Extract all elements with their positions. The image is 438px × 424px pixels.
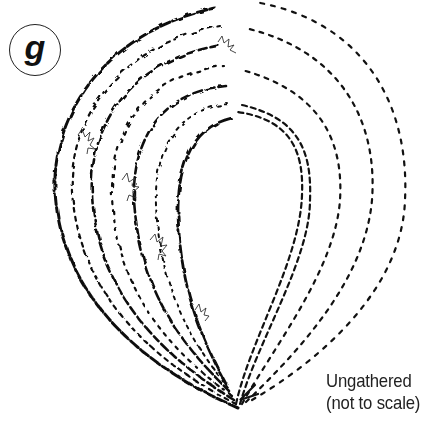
- figure-caption: Ungathered (not to scale): [326, 370, 420, 414]
- caption-note: (not to scale): [326, 392, 420, 414]
- gathered-outer-line: [55, 8, 238, 408]
- gathered-lines: [55, 8, 238, 408]
- figure-label-badge: g: [9, 24, 61, 76]
- gathering-diagram: [0, 0, 438, 424]
- ungathered-line-3: [242, 70, 340, 404]
- ungathered-lines: [236, 2, 405, 404]
- caption-title: Ungathered: [326, 370, 420, 392]
- ungathered-line-5: [252, 2, 405, 400]
- figure-label: g: [25, 30, 46, 64]
